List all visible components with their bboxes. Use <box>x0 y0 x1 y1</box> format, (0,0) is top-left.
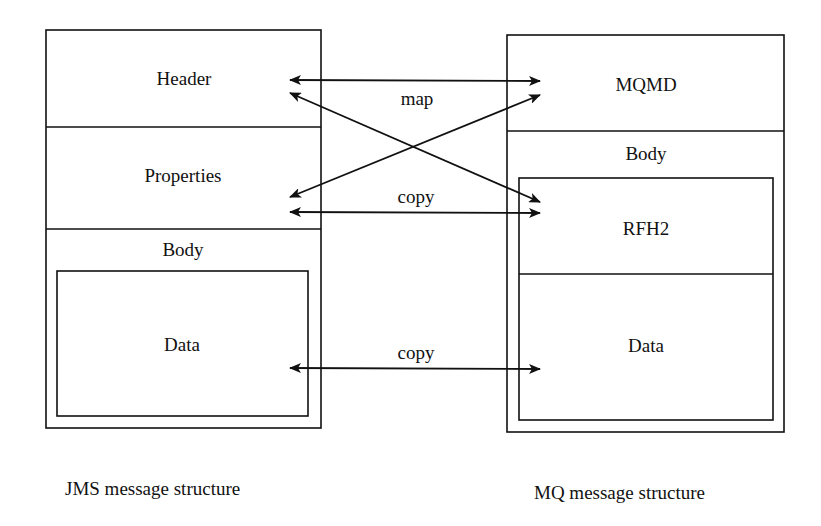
properties-rfh2-copy-arrow <box>290 212 540 213</box>
header-mqmd-map-arrow <box>290 80 540 81</box>
jms-data-label: Data <box>164 334 200 355</box>
mq-body-label: Body <box>625 143 667 164</box>
map-label: map <box>401 88 434 109</box>
jms-properties-label: Properties <box>144 165 221 186</box>
jms-body-label: Body <box>162 239 204 260</box>
data-copy-arrow <box>290 368 540 369</box>
mq-mqmd-label: MQMD <box>615 74 676 95</box>
mq-rfh2-label: RFH2 <box>623 218 669 239</box>
mapping-arrows: map copy copy <box>290 80 540 369</box>
jms-message-structure: Header Properties Body Data <box>46 30 321 428</box>
copy-data-label: copy <box>398 342 435 363</box>
jms-caption: JMS message structure <box>65 478 240 499</box>
jms-mq-mapping-diagram: Header Properties Body Data MQMD Body RF… <box>0 0 821 526</box>
jms-header-label: Header <box>157 68 213 89</box>
mq-caption: MQ message structure <box>534 482 705 503</box>
copy-properties-label: copy <box>398 186 435 207</box>
mq-body-inner-box <box>519 178 773 420</box>
mq-message-structure: MQMD Body RFH2 Data <box>507 35 784 432</box>
mq-data-label: Data <box>628 335 664 356</box>
